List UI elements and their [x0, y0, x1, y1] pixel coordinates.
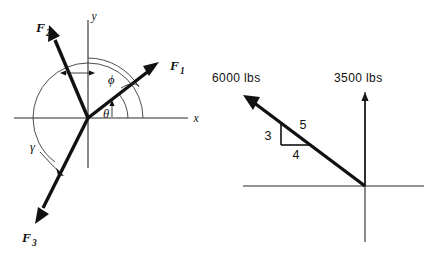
force-vector-f1 [88, 70, 150, 118]
right-diagram: 6000 lbs 3500 lbs 3 4 5 [212, 71, 424, 242]
angle-label-gamma: γ [30, 140, 36, 154]
force-label-f1: F 1 [169, 58, 185, 76]
force-vector-6000-arrowhead [243, 95, 260, 110]
force-label-f1-text: F [169, 58, 179, 73]
phi-arrowhead-left [60, 70, 66, 75]
slope-label-run: 4 [293, 148, 300, 162]
force-label-f3-text: F [21, 230, 31, 245]
angle-label-phi: ϕ [108, 73, 115, 87]
force-label-f3: F 3 [21, 230, 37, 248]
force-vector-f3-arrowhead [35, 207, 49, 224]
load-label-3500: 3500 lbs [334, 71, 383, 85]
slope-label-hypotenuse: 5 [300, 118, 307, 132]
force-label-f2-text: F [35, 20, 45, 35]
left-diagram: y x [14, 10, 199, 248]
force-vector-f2 [55, 40, 88, 118]
force-label-f2-sub: 2 [45, 28, 51, 38]
phi-arrowhead-right [89, 70, 95, 75]
force-vector-6000 [253, 102, 365, 186]
left-y-axis-label: y [90, 10, 97, 23]
force-label-f2: F 2 [35, 20, 51, 38]
gamma-arc [33, 118, 55, 162]
theta-arc [119, 94, 128, 118]
force-label-f3-sub: 3 [31, 238, 37, 248]
force-vector-3500-arrowhead [361, 92, 368, 101]
figure-svg: y x [0, 0, 434, 260]
angle-label-theta: θ [103, 107, 109, 121]
left-x-axis-label: x [192, 112, 199, 124]
slope-label-rise: 3 [265, 129, 272, 143]
force-label-f1-sub: 1 [180, 66, 185, 76]
load-label-6000: 6000 lbs [212, 71, 261, 85]
figure-root: y x [0, 0, 434, 260]
